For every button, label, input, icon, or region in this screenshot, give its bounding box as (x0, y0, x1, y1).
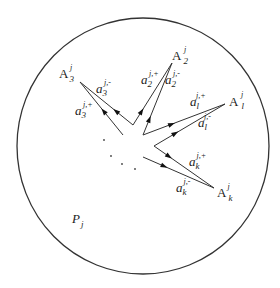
vertex-label-A2: A2j (172, 45, 188, 66)
region-boundary-circle (17, 18, 269, 274)
arrowhead-icon (138, 108, 144, 115)
edge-a1-minus (154, 104, 225, 146)
ellipsis-dot (121, 163, 123, 165)
vertex-label-A1: Alj (229, 90, 244, 111)
polygon-diagram: A3j A2j Alj Akj a3j,+ a3j,- a2j,+ a2j,- … (0, 0, 280, 288)
arrowhead-icon (165, 153, 172, 159)
edge-label-a2-plus: a2j,+ (141, 69, 159, 89)
region-label-Pj: Pj (71, 211, 84, 229)
ellipsis-dot (110, 155, 112, 157)
vertex-label-Ak: Akj (217, 182, 233, 203)
arrowhead-icon (146, 116, 151, 123)
edge-label-ak-plus: akj,+ (189, 151, 206, 171)
edge-label-a1-minus: alj,- (198, 112, 211, 132)
edge-label-a1-plus: alj,+ (190, 91, 206, 111)
ellipsis-dot (103, 139, 105, 141)
vertex-label-A3: A3j (59, 63, 74, 84)
edge-a1-plus (143, 104, 225, 135)
ellipsis-dot (134, 168, 136, 170)
edge-label-a3-minus: a3j,- (96, 78, 111, 98)
arrowhead-icon (171, 132, 178, 138)
edge-label-a2-minus: a2j,- (165, 69, 180, 89)
ellipsis-dots (103, 139, 136, 170)
arrowhead-icon (168, 123, 175, 128)
edge-label-ak-minus: akj,- (176, 177, 191, 197)
arrowhead-icon (160, 163, 167, 168)
edge-label-a3-plus: a3j,+ (75, 100, 93, 120)
